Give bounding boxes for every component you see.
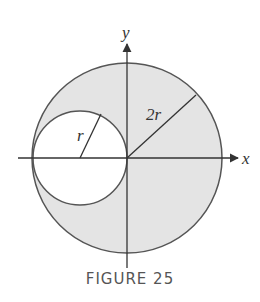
figure-diagram: x y 2r r bbox=[0, 0, 260, 302]
figure-caption: FIGURE 25 bbox=[0, 270, 260, 288]
small-radius-label: r bbox=[77, 126, 84, 145]
large-radius-label: 2r bbox=[146, 105, 162, 124]
x-axis-label: x bbox=[241, 149, 250, 168]
y-axis-label: y bbox=[120, 23, 130, 42]
